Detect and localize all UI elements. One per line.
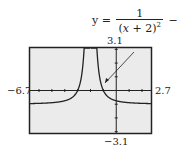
graph-screen — [0, 0, 182, 150]
